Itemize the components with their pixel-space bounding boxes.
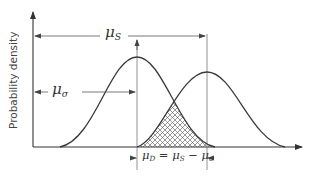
mu-s-symbol: μ [105, 23, 115, 41]
equals-sign: = [155, 148, 172, 162]
mu-sigma-symbol: μ [52, 80, 62, 98]
minus-sign: − [185, 148, 202, 162]
overlap-hatched-region [137, 72, 285, 147]
mu-sigma-subscript: σ [62, 88, 68, 99]
mu-d-equation: μD = μS − μσ [142, 150, 214, 163]
mu-sigma-term-symbol: μ [201, 148, 208, 162]
mu-sigma-term-subscript: σ [209, 154, 214, 163]
mu-s-label: μS [103, 25, 123, 42]
mu-s-subscript: S [115, 31, 121, 42]
y-axis-label: Probability density [2, 20, 24, 140]
mu-s-term-symbol: μ [172, 148, 179, 162]
stress-strength-interference-diagram: Probability density μS μσ μD = μS − μσ [0, 0, 320, 181]
mu-sigma-label: μσ [50, 82, 70, 99]
